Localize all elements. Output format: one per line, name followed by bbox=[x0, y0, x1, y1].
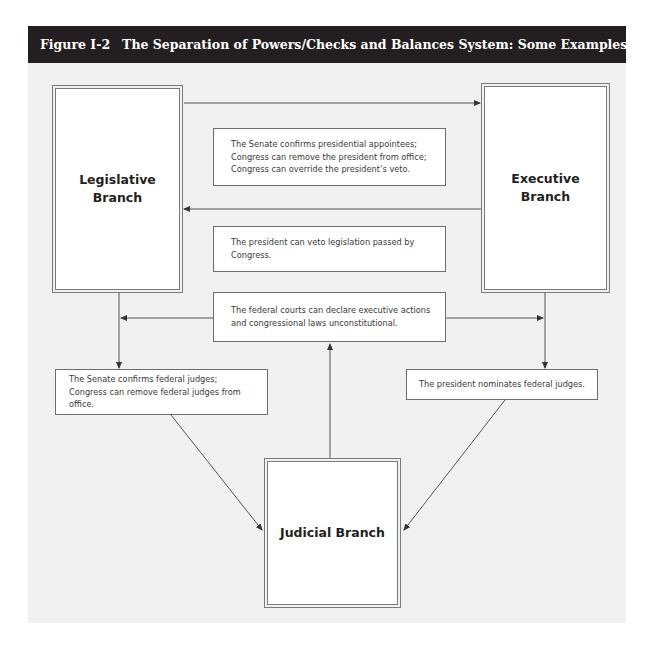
note-text: The Senate confirms presidential appoint… bbox=[231, 138, 435, 176]
note-judicial-review: The federal courts can declare executive… bbox=[213, 292, 446, 342]
legislative-branch-box: Legislative Branch bbox=[55, 88, 180, 290]
legislative-label-line1: Legislative bbox=[79, 171, 156, 189]
executive-label-line2: Branch bbox=[511, 188, 579, 206]
note-text: The Senate confirms federal judges; Cong… bbox=[69, 373, 257, 411]
legislative-label-line2: Branch bbox=[79, 189, 156, 207]
figure-header: Figure I-2 The Separation of Powers/Chec… bbox=[28, 26, 626, 63]
note-text: The president nominates federal judges. bbox=[419, 378, 585, 391]
figure-number: Figure I-2 bbox=[40, 37, 110, 52]
judicial-label: Judicial Branch bbox=[280, 524, 385, 542]
note-text: The federal courts can declare executive… bbox=[231, 304, 435, 329]
executive-label-line1: Executive bbox=[511, 170, 579, 188]
note-text: The president can veto legislation passe… bbox=[231, 236, 435, 261]
judicial-branch-box: Judicial Branch bbox=[267, 461, 398, 605]
note-executive-on-judicial: The president nominates federal judges. bbox=[406, 369, 598, 400]
figure-title: The Separation of Powers/Checks and Bala… bbox=[122, 37, 627, 52]
note-executive-on-legislative: The president can veto legislation passe… bbox=[213, 226, 446, 272]
note-legislative-on-executive: The Senate confirms presidential appoint… bbox=[213, 128, 446, 186]
executive-branch-box: Executive Branch bbox=[484, 86, 607, 290]
note-legislative-on-judicial: The Senate confirms federal judges; Cong… bbox=[55, 369, 268, 415]
